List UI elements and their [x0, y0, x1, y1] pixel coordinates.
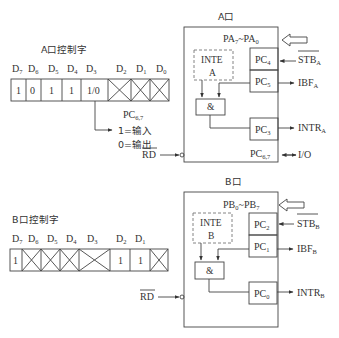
svg-text:PC4: PC4: [255, 54, 271, 66]
port-a-bus-label: PA7~PA0: [223, 33, 259, 45]
svg-text:A: A: [209, 68, 216, 78]
svg-text:D3: D3: [86, 63, 96, 75]
svg-text:D2: D2: [116, 233, 126, 245]
svg-text:1: 1: [138, 255, 143, 266]
svg-text:D7: D7: [12, 233, 23, 245]
signal-stb-b: STBB: [297, 218, 320, 230]
bus-arrow-icon: [282, 34, 307, 46]
rd-signal-a: RD: [142, 149, 156, 160]
svg-text:PC0: PC0: [254, 288, 269, 300]
port-a-control-word-label: A口控制字: [41, 44, 88, 55]
svg-text:D0: D0: [156, 63, 166, 75]
svg-text:PC5: PC5: [255, 76, 270, 88]
svg-text:1: 1: [49, 85, 54, 96]
port-b-block: [184, 192, 278, 327]
svg-text:0: 0: [30, 85, 35, 96]
port-a-block: [184, 27, 278, 162]
svg-text:PC2: PC2: [254, 219, 269, 231]
svg-text:1: 1: [118, 255, 123, 266]
svg-text:&: &: [207, 102, 215, 112]
port-a-title: A口: [218, 11, 235, 22]
signal-intr-a: INTRA: [298, 122, 326, 134]
svg-text:PC3: PC3: [255, 124, 270, 136]
port-b-bus-label: PB0~PB7: [223, 199, 260, 211]
svg-text:1: 1: [16, 85, 21, 96]
svg-text:PC6,7: PC6,7: [250, 148, 271, 160]
port-a-pc67-note: PC6,7 1=输入 0=输出: [95, 101, 152, 150]
port-a-section: A口控制字 D7 D6 D5 D4 D3 D2 D1 D0 1: [11, 11, 326, 162]
port-b-bit-cells: 1 1 1: [10, 249, 168, 271]
svg-text:D4: D4: [66, 233, 77, 245]
signal-ibf-b: IBFB: [297, 243, 318, 255]
bus-arrow-icon: [279, 199, 304, 211]
signal-stb-a: STBA: [298, 54, 321, 66]
svg-text:B: B: [208, 231, 214, 241]
svg-text:D6: D6: [28, 233, 39, 245]
signal-ibf-a: IBFA: [298, 77, 319, 89]
svg-text:D4: D4: [67, 63, 78, 75]
svg-text:D1: D1: [135, 233, 145, 245]
svg-text:D5: D5: [48, 63, 58, 75]
port-a-bit-headers: D7 D6 D5 D4 D3 D2 D1 D0: [12, 63, 166, 75]
svg-text:1=输入: 1=输入: [118, 125, 152, 136]
svg-text:1/0: 1/0: [87, 85, 100, 96]
signal-intr-b: INTRB: [297, 287, 325, 299]
port-b-control-word-label: B口控制字: [12, 214, 59, 225]
signal-io: I/O: [298, 149, 311, 160]
port-b-section: B口控制字 D7 D6 D5 D4 D3 D2 D1 1 1 1: [10, 176, 325, 327]
svg-text:PC1: PC1: [254, 241, 269, 253]
svg-text:PC6,7: PC6,7: [123, 109, 144, 121]
svg-text:D6: D6: [28, 63, 39, 75]
svg-text:1: 1: [69, 85, 74, 96]
svg-text:D5: D5: [47, 233, 57, 245]
port-b-title: B口: [225, 176, 242, 187]
svg-text:INTE: INTE: [201, 55, 223, 65]
svg-text:D7: D7: [12, 63, 23, 75]
svg-text:D1: D1: [136, 63, 146, 75]
svg-text:D2: D2: [116, 63, 126, 75]
port-a-bit-cells: 1 0 1 1 1/0: [11, 79, 169, 101]
svg-text:&: &: [206, 266, 214, 276]
svg-text:D3: D3: [87, 233, 97, 245]
port-b-bit-headers: D7 D6 D5 D4 D3 D2 D1: [12, 233, 145, 245]
svg-text:1: 1: [13, 255, 18, 266]
8255-mode1-input-diagram: A口控制字 D7 D6 D5 D4 D3 D2 D1 D0 1: [0, 0, 339, 338]
svg-text:INTE: INTE: [200, 218, 222, 228]
rd-signal-b: RD: [140, 291, 154, 302]
